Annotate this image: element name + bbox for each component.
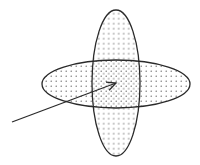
diagram-canvas (0, 0, 200, 165)
venn-diagram: intersection (0, 0, 200, 165)
